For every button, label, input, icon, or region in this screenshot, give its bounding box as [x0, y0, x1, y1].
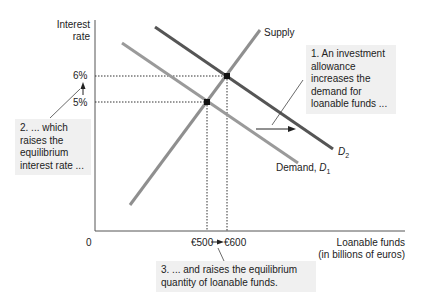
annotation-1-line: demand for	[311, 86, 391, 99]
demand-d1-prefix: Demand,	[276, 162, 319, 173]
annotation-2: 2. ... which raises the equilibrium inte…	[15, 119, 91, 175]
annotation-3: 3. ... and raises the equilibrium quanti…	[156, 261, 316, 292]
supply-curve	[130, 30, 260, 205]
annotation-3-line: quantity of loanable funds.	[161, 277, 311, 290]
annotation-2-line: equilibrium	[20, 147, 86, 160]
supply-label: Supply	[264, 27, 295, 39]
y-tick-5pct: 5%	[73, 97, 87, 109]
annotation-1-line: 1. An investment	[311, 48, 391, 61]
x-axis-label-units: (in billions of euros)	[300, 249, 405, 261]
annotation-3-line: 3. ... and raises the equilibrium	[161, 264, 311, 277]
equilibrium-point-new	[224, 73, 230, 79]
x-tick-600: €600	[224, 237, 246, 249]
y-axis-label: Interest rate	[52, 19, 90, 43]
x-axis-label: Loanable funds	[330, 237, 405, 249]
leader-note3	[218, 248, 224, 261]
y-axis-label-line1: Interest	[52, 19, 90, 31]
annotation-2-line: raises the	[20, 135, 86, 148]
annotation-2-line: interest rate ...	[20, 160, 86, 173]
demand-d1-label: Demand, D1	[276, 162, 331, 178]
x-axis-label-line1: Loanable funds	[330, 237, 405, 249]
demand-d1-var: D	[319, 162, 326, 173]
annotation-2-line: 2. ... which	[20, 122, 86, 135]
y-axis-label-line2: rate	[52, 31, 90, 43]
annotation-1-line: increases the	[311, 73, 391, 86]
annotation-1: 1. An investment allowance increases the…	[306, 45, 396, 114]
equilibrium-point-initial	[204, 99, 210, 105]
x-tick-500: €500	[191, 237, 213, 249]
demand-d2-sub: 2	[345, 152, 349, 159]
rate-rise-arrowhead-icon	[81, 82, 86, 89]
demand-d2-label: D2	[338, 146, 349, 162]
annotation-1-line: allowance	[311, 61, 391, 74]
quantity-rise-arrowhead-icon	[217, 240, 224, 245]
annotation-1-line: loanable funds ...	[311, 98, 391, 111]
origin-label: 0	[86, 237, 92, 249]
demand-d1-sub: 1	[327, 168, 331, 175]
shift-arrowhead-icon	[288, 126, 296, 132]
y-tick-6pct: 6%	[73, 70, 87, 82]
